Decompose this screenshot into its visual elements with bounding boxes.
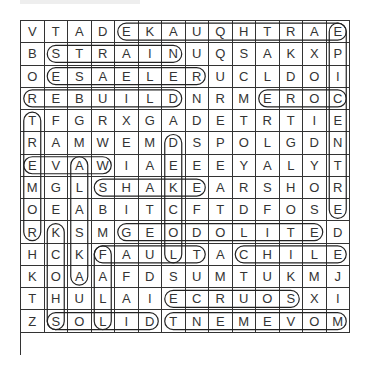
grid-cell[interactable]: D [139,266,163,288]
grid-cell[interactable]: H [21,244,45,266]
grid-cell[interactable]: U [186,21,210,43]
grid-cell[interactable]: A [139,155,163,177]
grid-cell[interactable]: O [303,88,327,110]
grid-cell[interactable]: R [256,110,280,132]
grid-cell[interactable]: D [162,88,186,110]
grid-cell[interactable]: S [256,177,280,199]
grid-cell[interactable]: D [303,132,327,154]
grid-cell[interactable]: R [21,221,45,243]
grid-cell[interactable]: S [92,177,116,199]
grid-cell[interactable]: U [186,43,210,65]
grid-cell[interactable]: R [209,88,233,110]
grid-cell[interactable]: E [327,199,351,221]
grid-cell[interactable]: J [327,266,351,288]
grid-cell[interactable]: L [280,155,304,177]
grid-cell[interactable]: E [186,177,210,199]
grid-cell[interactable]: D [162,132,186,154]
grid-cell[interactable]: R [186,66,210,88]
grid-cell[interactable]: E [256,310,280,332]
grid-cell[interactable]: Q [209,21,233,43]
grid-cell[interactable]: I [280,244,304,266]
grid-cell[interactable]: I [303,110,327,132]
grid-cell[interactable]: T [280,221,304,243]
grid-cell[interactable]: N [162,43,186,65]
grid-cell[interactable]: Y [233,155,257,177]
grid-cell[interactable]: E [45,199,69,221]
grid-cell[interactable]: H [280,177,304,199]
grid-cell[interactable]: L [256,66,280,88]
grid-cell[interactable]: S [233,43,257,65]
grid-cell[interactable]: G [68,110,92,132]
grid-cell[interactable]: F [45,110,69,132]
grid-cell[interactable]: T [280,110,304,132]
grid-cell[interactable]: I [115,310,139,332]
grid-cell[interactable]: G [45,177,69,199]
grid-cell[interactable]: M [21,177,45,199]
grid-cell[interactable]: A [115,244,139,266]
grid-cell[interactable]: E [327,244,351,266]
grid-cell[interactable]: R [233,177,257,199]
grid-cell[interactable]: I [139,288,163,310]
grid-cell[interactable]: T [45,21,69,43]
grid-cell[interactable]: N [186,310,210,332]
grid-cell[interactable]: H [233,21,257,43]
grid-cell[interactable]: T [68,43,92,65]
grid-cell[interactable]: K [162,177,186,199]
grid-cell[interactable]: M [68,132,92,154]
grid-cell[interactable]: T [21,288,45,310]
grid-cell[interactable]: L [303,244,327,266]
grid-cell[interactable]: B [92,199,116,221]
grid-cell[interactable]: L [233,221,257,243]
grid-cell[interactable]: I [256,221,280,243]
grid-cell[interactable]: L [68,177,92,199]
grid-cell[interactable]: M [209,266,233,288]
grid-cell[interactable]: U [233,288,257,310]
grid-cell[interactable]: S [68,221,92,243]
grid-cell[interactable]: O [21,66,45,88]
grid-cell[interactable]: E [186,155,210,177]
grid-cell[interactable]: O [303,66,327,88]
grid-cell[interactable]: I [115,88,139,110]
grid-cell[interactable]: X [303,288,327,310]
grid-cell[interactable]: E [162,288,186,310]
grid-cell[interactable]: T [209,199,233,221]
grid-cell[interactable]: M [139,132,163,154]
grid-cell[interactable]: A [256,43,280,65]
grid-cell[interactable]: E [115,21,139,43]
grid-cell[interactable]: G [139,110,163,132]
grid-cell[interactable]: D [280,66,304,88]
grid-cell[interactable]: S [45,43,69,65]
grid-cell[interactable]: S [68,66,92,88]
grid-cell[interactable]: L [162,244,186,266]
grid-cell[interactable]: M [327,310,351,332]
grid-cell[interactable]: A [115,288,139,310]
grid-cell[interactable]: K [21,266,45,288]
grid-cell[interactable]: O [45,266,69,288]
grid-cell[interactable]: O [21,199,45,221]
grid-cell[interactable]: R [21,88,45,110]
grid-cell[interactable]: R [209,288,233,310]
grid-cell[interactable]: A [209,244,233,266]
grid-cell[interactable]: T [327,155,351,177]
grid-cell[interactable]: S [186,132,210,154]
grid-cell[interactable]: F [256,199,280,221]
grid-cell[interactable]: F [92,244,116,266]
grid-cell[interactable]: E [21,155,45,177]
grid-cell[interactable]: T [233,110,257,132]
grid-cell[interactable]: O [280,199,304,221]
grid-cell[interactable]: D [327,221,351,243]
grid-cell[interactable]: U [92,88,116,110]
grid-cell[interactable]: K [45,221,69,243]
grid-cell[interactable]: B [21,43,45,65]
grid-cell[interactable]: A [209,177,233,199]
grid-cell[interactable]: H [115,177,139,199]
grid-cell[interactable]: R [21,132,45,154]
grid-cell[interactable]: E [45,88,69,110]
grid-cell[interactable]: W [92,132,116,154]
grid-cell[interactable]: A [256,155,280,177]
grid-cell[interactable]: R [92,43,116,65]
grid-cell[interactable]: L [139,88,163,110]
grid-cell[interactable]: R [327,177,351,199]
grid-cell[interactable]: C [233,66,257,88]
grid-cell[interactable]: V [21,21,45,43]
